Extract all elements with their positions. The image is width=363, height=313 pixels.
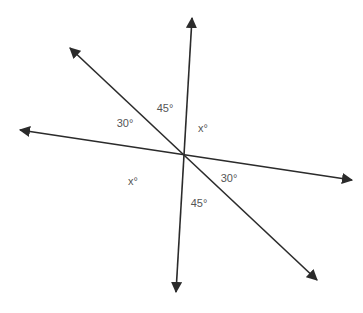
near-horizontal-line [20, 130, 352, 180]
angle-label-lower-45: 45° [191, 197, 208, 209]
angle-label-upper-left-30: 30° [117, 117, 134, 129]
angle-label-upper-right-x: x° [198, 122, 208, 134]
angle-label-lower-left-x: x° [128, 175, 138, 187]
diagonal-line [70, 48, 317, 280]
angle-diagram [0, 0, 363, 313]
angle-label-lower-right-30: 30° [221, 172, 238, 184]
angle-label-upper-45: 45° [157, 102, 174, 114]
